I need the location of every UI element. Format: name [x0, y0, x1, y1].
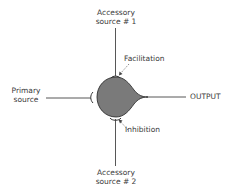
accessory-source-1-line2: source # 1 — [88, 17, 144, 26]
accessory-source-1-label: Accessory source # 1 — [88, 8, 144, 26]
facilitation-label: Facilitation — [124, 54, 165, 63]
accessory-source-1-line1: Accessory — [88, 8, 144, 17]
facilitation-arrowhead-icon — [119, 72, 123, 76]
inhibition-label: Inhibition — [125, 125, 160, 134]
primary-source-line1: Primary — [8, 86, 44, 95]
output-label: OUTPUT — [190, 92, 221, 101]
primary-synapse — [91, 92, 93, 103]
accessory-source-2-label: Accessory source # 2 — [88, 168, 144, 186]
accessory-source-2-line1: Accessory — [88, 168, 144, 177]
accessory-source-2-line2: source # 2 — [88, 177, 144, 186]
primary-source-line2: source — [8, 95, 44, 104]
cell-body — [97, 77, 148, 117]
primary-source-label: Primary source — [8, 86, 44, 104]
facilitation-pointer — [120, 64, 129, 74]
